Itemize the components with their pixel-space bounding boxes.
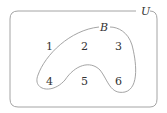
set-b-label: B bbox=[99, 21, 108, 34]
element-1: 1 bbox=[46, 40, 53, 53]
universe-label: U bbox=[141, 5, 151, 18]
element-6: 6 bbox=[115, 75, 122, 88]
element-5: 5 bbox=[81, 75, 88, 88]
element-3: 3 bbox=[115, 40, 122, 53]
element-2: 2 bbox=[81, 40, 88, 53]
element-4: 4 bbox=[46, 75, 53, 88]
venn-diagram: U B 1 2 3 4 5 6 bbox=[0, 0, 167, 113]
